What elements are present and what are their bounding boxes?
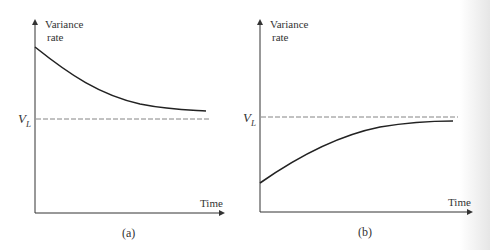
xlabel-b: Time — [448, 196, 471, 208]
ylabel-b-line2: rate — [272, 31, 288, 43]
panel-a — [35, 22, 222, 213]
caption-b: (b) — [358, 225, 372, 240]
curve-b — [260, 121, 453, 183]
xlabel-a: Time — [200, 197, 223, 209]
caption-a: (a) — [122, 226, 135, 241]
ylabel-a-line1: Variance — [45, 18, 83, 30]
curve-a — [35, 47, 206, 111]
vl-label-a: VL — [18, 111, 31, 129]
panel-b — [260, 22, 470, 212]
vl-label-b: VL — [243, 110, 256, 128]
ylabel-b-line1: Variance — [270, 18, 308, 30]
ylabel-a-line2: rate — [47, 31, 63, 43]
